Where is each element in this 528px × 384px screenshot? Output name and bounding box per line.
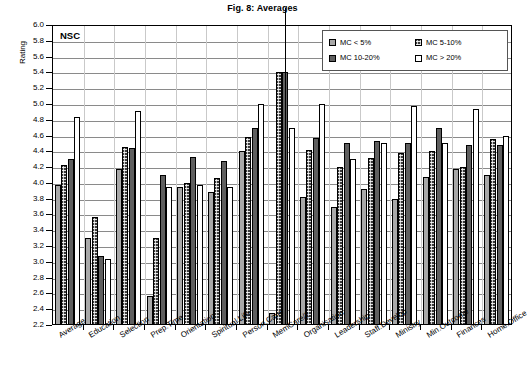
legend-swatch-icon-3 (415, 55, 422, 62)
bar (245, 137, 251, 325)
legend-swatch-icon-1 (415, 39, 422, 46)
bar (361, 189, 367, 325)
legend-label-0: MC < 5% (340, 39, 371, 47)
bar (135, 111, 141, 325)
legend-swatch-icon-2 (329, 55, 336, 62)
bar (460, 167, 466, 325)
bar (74, 117, 80, 325)
bar (208, 192, 214, 325)
bar (374, 141, 380, 325)
y-tick-label: 5.0 (14, 100, 44, 108)
bar (258, 104, 264, 325)
y-tick-mark (46, 104, 52, 105)
y-tick-label: 5.6 (14, 53, 44, 61)
y-tick-mark (46, 25, 52, 26)
y-tick-label: 5.8 (14, 37, 44, 45)
bar (453, 169, 459, 325)
y-tick-label: 4.0 (14, 179, 44, 187)
legend-label-3: MC > 20% (426, 54, 461, 62)
y-tick-label: 3.4 (14, 226, 44, 234)
legend-label-1: MC 5-10% (426, 39, 461, 47)
bar (490, 139, 496, 325)
bar (368, 158, 374, 325)
y-tick-label: 4.6 (14, 132, 44, 140)
bar (497, 145, 503, 325)
y-tick-mark (46, 214, 52, 215)
bar (197, 185, 203, 325)
chart-legend: MC < 5% MC 5-10% MC 10-20% MC > 20% (322, 30, 508, 71)
y-tick-mark (46, 309, 52, 310)
bar (473, 109, 479, 325)
bar (116, 169, 122, 325)
y-tick-mark (46, 183, 52, 184)
y-tick-label: 2.4 (14, 305, 44, 313)
bar (184, 183, 190, 325)
bar (436, 128, 442, 325)
bar (442, 143, 448, 325)
y-tick-label: 2.6 (14, 289, 44, 297)
bar (166, 187, 172, 325)
memcare-divider (285, 8, 286, 325)
bar (276, 72, 282, 325)
y-tick-mark (46, 88, 52, 89)
bar (92, 217, 98, 325)
bar (214, 178, 220, 325)
y-tick-label: 2.8 (14, 274, 44, 282)
y-tick-label: 3.6 (14, 210, 44, 218)
y-tick-label: 2.2 (14, 321, 44, 329)
category-separator (268, 26, 269, 324)
y-tick-mark (46, 325, 52, 326)
bar (221, 161, 227, 325)
legend-item-2: MC 10-20% (329, 51, 415, 67)
y-tick-mark (46, 120, 52, 121)
y-tick-label: 3.8 (14, 195, 44, 203)
bar (68, 159, 74, 325)
y-tick-label: 4.4 (14, 147, 44, 155)
y-tick-mark (46, 136, 52, 137)
legend-item-3: MC > 20% (415, 51, 501, 67)
nsc-annotation: NSC (60, 30, 80, 41)
y-tick-label: 5.4 (14, 68, 44, 76)
bar (98, 256, 104, 325)
bar (331, 207, 337, 325)
y-tick-label: 5.2 (14, 84, 44, 92)
bar (160, 175, 166, 325)
y-tick-mark (46, 230, 52, 231)
y-tick-mark (46, 278, 52, 279)
y-tick-mark (46, 72, 52, 73)
bar (484, 175, 490, 325)
bar (344, 143, 350, 325)
bar (129, 148, 135, 325)
y-tick-label: 3.0 (14, 258, 44, 266)
bar (337, 167, 343, 325)
y-tick-mark (46, 262, 52, 263)
bar (405, 143, 411, 325)
y-tick-label: 3.2 (14, 242, 44, 250)
bar (319, 104, 325, 325)
bar (289, 128, 295, 325)
bar (61, 165, 67, 325)
bar (227, 187, 233, 325)
bar (429, 151, 435, 325)
bar (350, 159, 356, 325)
y-tick-label: 4.2 (14, 163, 44, 171)
bar (105, 259, 111, 325)
bar (306, 150, 312, 325)
y-tick-mark (46, 293, 52, 294)
bar (423, 177, 429, 325)
y-tick-mark (46, 41, 52, 42)
bar (392, 199, 398, 325)
bar (122, 147, 128, 325)
y-tick-label: 4.8 (14, 116, 44, 124)
bar (153, 238, 159, 325)
category-separator (145, 26, 146, 324)
bar (466, 145, 472, 325)
bar (381, 143, 387, 325)
y-tick-mark (46, 57, 52, 58)
bar (85, 238, 91, 325)
bar (190, 157, 196, 325)
bar (313, 138, 319, 325)
y-tick-mark (46, 199, 52, 200)
legend-label-2: MC 10-20% (340, 54, 380, 62)
y-tick-mark (46, 151, 52, 152)
